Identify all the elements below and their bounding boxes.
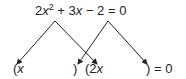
first-factor-open: (x [13, 61, 24, 77]
arrow-left-v-left-arm [17, 21, 55, 64]
variable-x: x [97, 61, 104, 76]
first-factor-close: ) [73, 61, 77, 77]
second-factor-open: (2x [85, 61, 103, 77]
variable-x: x [17, 61, 24, 76]
arrow-left-v-right-arm [55, 21, 97, 64]
arrow-right-v-left-arm [78, 21, 108, 64]
second-factor-close: ) = 0 [146, 61, 172, 77]
open-paren-2: (2 [85, 61, 97, 76]
arrow-right-v-right-arm [108, 21, 147, 64]
